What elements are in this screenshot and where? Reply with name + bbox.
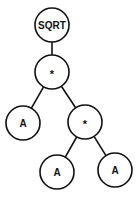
- node-label: A: [53, 167, 60, 178]
- node-label: SQRT: [38, 20, 66, 31]
- node-label: *: [83, 118, 88, 130]
- tree-node: A: [40, 155, 74, 189]
- node-label: A: [19, 118, 26, 129]
- tree-edge: [61, 86, 75, 108]
- tree-node: SQRT: [35, 8, 69, 42]
- tree-node: A: [6, 106, 40, 140]
- node-label: *: [50, 68, 55, 80]
- tree-edge: [65, 137, 76, 157]
- tree-node: A: [98, 153, 132, 187]
- tree-node: *: [68, 105, 102, 139]
- tree-edge: [31, 87, 43, 108]
- tree-node: *: [35, 55, 69, 89]
- node-label: A: [111, 165, 118, 176]
- tree-edge: [94, 136, 106, 155]
- expression-tree: SQRT*A*AA: [0, 0, 139, 197]
